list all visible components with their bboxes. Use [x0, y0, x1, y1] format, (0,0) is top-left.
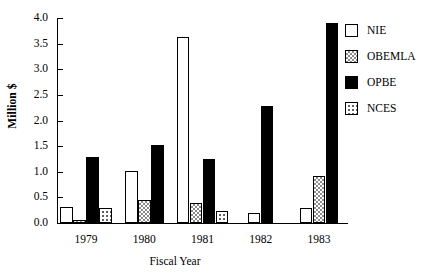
x-tick-label-1981: 1981: [175, 233, 231, 245]
y-tick-label: 2.0: [14, 115, 48, 127]
chart-legend: NIEOBEMLAOPBENCES: [345, 22, 438, 126]
bar-obemla-1979: [73, 220, 86, 223]
bar-chart-figure: Million $ 0.00.51.01.52.02.53.03.54.0 19…: [0, 0, 438, 275]
bar-nie-1980: [125, 171, 138, 223]
y-tick-mark: [58, 95, 63, 96]
legend-swatch-obemla: [345, 50, 358, 63]
x-tick-label-1980: 1980: [116, 233, 172, 245]
bar-obemla-1981: [190, 203, 203, 224]
y-tick-label: 1.5: [14, 140, 48, 152]
legend-item-opbe[interactable]: OPBE: [345, 74, 438, 100]
bar-obemla-1983: [313, 176, 326, 223]
x-axis-label: Fiscal Year: [0, 255, 350, 267]
legend-swatch-opbe: [345, 76, 358, 89]
y-tick-label: 3.5: [14, 38, 48, 50]
y-tick-label: 1.0: [14, 166, 48, 178]
legend-item-obemla[interactable]: OBEMLA: [345, 48, 438, 74]
bar-nie-1979: [60, 207, 73, 223]
legend-swatch-nie: [345, 24, 358, 37]
y-tick-mark: [58, 121, 63, 122]
plot-area: [57, 18, 348, 223]
y-tick-mark: [58, 69, 63, 70]
bar-opbe-1983: [326, 23, 339, 223]
legend-item-nces[interactable]: NCES: [345, 100, 438, 126]
bar-nie-1982: [248, 213, 261, 223]
x-tick-label-1979: 1979: [58, 233, 114, 245]
bar-nie-1981: [177, 37, 190, 223]
bar-opbe-1982: [261, 106, 274, 223]
legend-label-obemla: OBEMLA: [367, 49, 416, 63]
y-tick-mark: [58, 172, 63, 173]
y-tick-label: 0.5: [14, 191, 48, 203]
legend-label-opbe: OPBE: [367, 75, 396, 89]
bar-nie-1983: [300, 208, 313, 223]
y-tick-label: 2.5: [14, 89, 48, 101]
y-tick-mark: [58, 146, 63, 147]
x-tick-label-1982: 1982: [233, 233, 289, 245]
bar-nces-1979: [99, 208, 112, 223]
y-tick-label: 4.0: [14, 12, 48, 24]
legend-label-nie: NIE: [367, 23, 386, 37]
legend-item-nie[interactable]: NIE: [345, 22, 438, 48]
bar-nces-1981: [216, 211, 229, 223]
y-tick-label: 3.0: [14, 63, 48, 75]
bar-obemla-1980: [138, 200, 151, 223]
bar-opbe-1980: [151, 145, 164, 223]
y-tick-mark: [58, 18, 63, 19]
y-tick-label: 0.0: [14, 217, 48, 229]
y-tick-mark: [58, 44, 63, 45]
bar-opbe-1979: [86, 157, 99, 223]
y-tick-mark: [58, 223, 63, 224]
y-tick-mark: [58, 197, 63, 198]
x-tick-label-1983: 1983: [291, 233, 347, 245]
legend-swatch-nces: [345, 102, 358, 115]
legend-label-nces: NCES: [367, 101, 396, 115]
bar-opbe-1981: [203, 159, 216, 223]
